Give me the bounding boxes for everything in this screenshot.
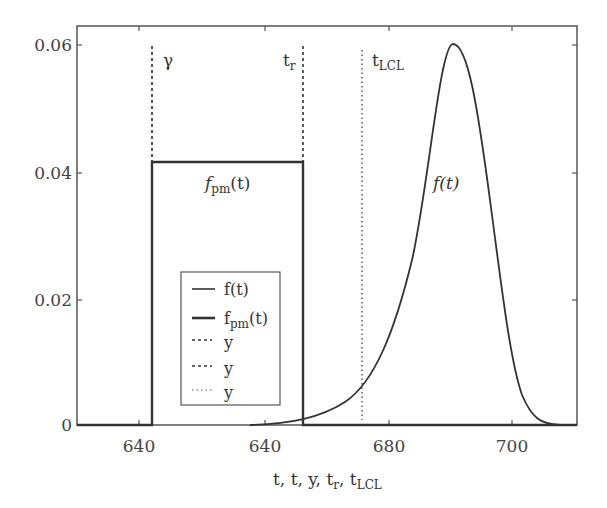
x-tick-label: 680 — [373, 436, 405, 456]
ft-series — [250, 44, 577, 425]
y-tick-label: 0.06 — [34, 35, 72, 55]
legend-label: f(t) — [224, 280, 249, 299]
x-tick-label: 640 — [249, 436, 281, 456]
gamma-label: γ — [163, 50, 173, 70]
y-tick-label: 0 — [61, 415, 72, 435]
ft-annotation: f(t) — [431, 173, 459, 193]
x-tick-label: 640 — [123, 436, 155, 456]
x-tick-label: 700 — [496, 436, 528, 456]
chart: 0 0.02 0.04 0.06 640 640 680 700 t, t, y… — [0, 0, 607, 508]
x-axis-label: t, t, y, tr, tLCL — [273, 469, 382, 492]
legend-label: y — [223, 333, 233, 352]
y-tick-label: 0.04 — [34, 163, 72, 183]
y-tick-label: 0.02 — [34, 290, 72, 310]
legend-label: y — [223, 359, 233, 378]
legend-label: y — [223, 383, 233, 402]
tr-label: tr — [283, 50, 296, 73]
legend: f(t) fpm(t) y y y — [181, 272, 280, 405]
tlcl-label: tLCL — [372, 50, 404, 73]
fpm-annotation: fpm(t) — [203, 173, 250, 196]
